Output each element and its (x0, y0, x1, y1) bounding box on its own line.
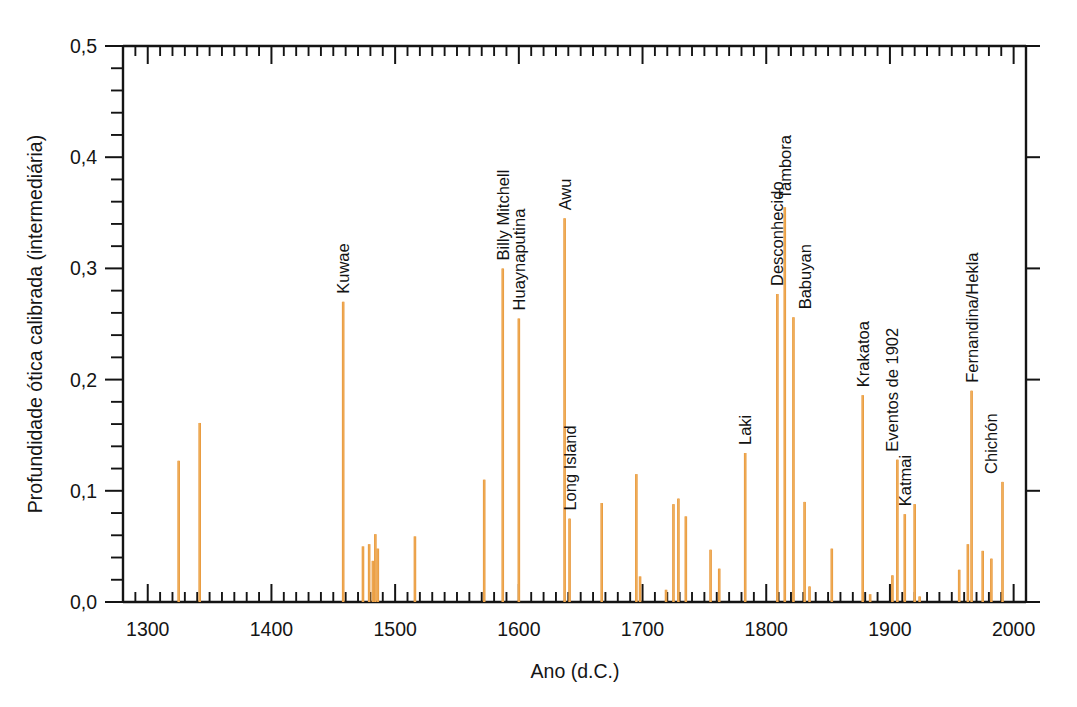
bar-series (179, 207, 1003, 602)
chart-figure: 13001400150016001700180019002000 0,00,10… (0, 0, 1077, 707)
y-tick-label: 0,2 (70, 369, 97, 391)
y-tick-label: 0,0 (70, 591, 97, 613)
peak-annotation-label: Tambora (776, 134, 794, 199)
x-tick-label: 1600 (497, 618, 541, 640)
peak-annotation-label: Awu (556, 179, 574, 211)
axes-frame (123, 46, 1026, 602)
y-axis-title: Profundidade ótica calibrada (intermediá… (24, 135, 46, 513)
peak-annotation-label: Chichón (982, 413, 1000, 474)
x-axis-ticks (123, 46, 1026, 602)
x-tick-label: 1700 (621, 618, 665, 640)
peak-annotation-label: Kuwae (334, 243, 352, 293)
y-tick-label: 0,1 (70, 480, 97, 502)
peak-annotation-label: Krakatoa (854, 320, 872, 387)
y-axis-ticks (105, 46, 1040, 602)
x-tick-label: 2000 (992, 618, 1036, 640)
peak-annotation-label: Katmai (896, 455, 914, 506)
peak-annotation-label: Laki (736, 415, 754, 445)
peak-annotations: KuwaeBilly MitchellHuaynaputinaAwuLong I… (334, 134, 1000, 510)
y-tick-label: 0,5 (70, 35, 97, 57)
peak-annotation-label: Babuyan (796, 244, 814, 309)
x-axis-title: Ano (d.C.) (531, 660, 620, 682)
peak-annotation-label: Huaynaputina (510, 208, 528, 311)
x-axis-tick-labels: 13001400150016001700180019002000 (126, 618, 1035, 640)
volcanic-optical-depth-chart: 13001400150016001700180019002000 0,00,10… (0, 0, 1077, 707)
y-axis-tick-labels: 0,00,10,20,30,40,5 (70, 35, 97, 613)
x-tick-label: 1900 (868, 618, 912, 640)
y-tick-label: 0,3 (70, 257, 97, 279)
x-tick-label: 1300 (126, 618, 170, 640)
x-tick-label: 1500 (373, 618, 417, 640)
peak-annotation-label: Long Island (561, 425, 579, 510)
x-tick-label: 1400 (250, 618, 294, 640)
peak-annotation-label: Fernandina/Hekla (963, 252, 981, 383)
y-tick-label: 0,4 (70, 146, 97, 168)
x-tick-label: 1800 (745, 618, 789, 640)
peak-annotation-label: Eventos de 1902 (883, 328, 901, 452)
